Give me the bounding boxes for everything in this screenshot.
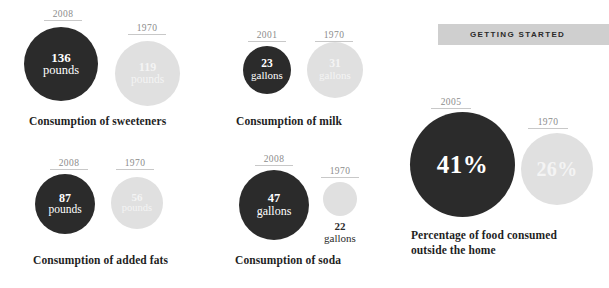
year-label-soda-recent: 2008 (255, 154, 293, 166)
caption-outside-home-line2: outside the home (411, 243, 609, 258)
year-label-milk-recent: 2001 (248, 30, 286, 42)
caption-sweeteners: Consumption of sweeteners (29, 114, 209, 129)
year-label-sweeteners-recent: 2008 (44, 9, 82, 21)
year-underline (50, 169, 88, 170)
year-label-milk-baseline: 1970 (315, 30, 353, 42)
bubble-unit: gallons (251, 70, 283, 81)
bubble-milk-baseline: 31 gallons (307, 42, 363, 98)
year-text: 1970 (324, 30, 345, 40)
bubble-soda-recent: 47 gallons (239, 170, 309, 240)
year-label-added-fats-recent: 2008 (50, 158, 88, 170)
caption-outside-home-line1: Percentage of food consumed (411, 228, 609, 243)
year-text: 2005 (441, 97, 462, 107)
bubble-outside-home-baseline: 26% (521, 133, 593, 205)
bubble-sweeteners-baseline: 119 pounds (115, 41, 180, 106)
group-added-fats: 2008 1970 87 pounds 56 pounds Consumptio… (0, 148, 215, 288)
bubble-unit: pounds (131, 74, 164, 86)
bubble-value: 26% (536, 159, 577, 180)
year-underline (321, 177, 359, 178)
year-underline (528, 128, 568, 129)
infographic-canvas: GETTING STARTED 2008 1970 136 pounds 119… (0, 0, 609, 288)
year-label-soda-baseline: 1970 (321, 166, 359, 178)
group-soda: 2008 1970 47 gallons 22 gallons Consumpt… (230, 148, 420, 288)
caption-added-fats: Consumption of added fats (33, 253, 223, 268)
year-label-added-fats-baseline: 1970 (116, 158, 154, 170)
year-underline (44, 20, 82, 21)
bubble-outside-home-recent: 41% (410, 112, 515, 217)
year-text: 2008 (59, 158, 80, 168)
bubble-soda-baseline-value: 22 gallons (310, 220, 370, 244)
year-text: 1970 (125, 158, 146, 168)
year-label-sweeteners-baseline: 1970 (128, 23, 166, 35)
year-label-outside-home-recent: 2005 (431, 97, 471, 109)
group-outside-home: 2005 1970 41% 26% Percentage of food con… (405, 95, 609, 288)
bubble-added-fats-recent: 87 pounds (35, 174, 95, 234)
year-underline (116, 169, 154, 170)
bubble-value: 119 (139, 61, 156, 73)
bubble-unit: pounds (48, 204, 81, 216)
bubble-sweeteners-recent: 136 pounds (24, 27, 98, 101)
bubble-value: 22 (310, 220, 370, 232)
year-text: 1970 (538, 117, 559, 127)
bubble-unit: gallons (257, 205, 292, 217)
bubble-added-fats-baseline: 56 pounds (111, 177, 163, 229)
bubble-milk-recent: 23 gallons (243, 46, 291, 94)
caption-milk: Consumption of milk (236, 114, 416, 129)
year-underline (128, 34, 166, 35)
bubble-unit: gallons (319, 70, 351, 81)
year-text: 2008 (53, 9, 74, 19)
bubble-unit: gallons (310, 232, 370, 244)
year-text: 1970 (330, 166, 351, 176)
bubble-unit: pounds (43, 64, 79, 77)
year-text: 1970 (137, 23, 158, 33)
getting-started-label: GETTING STARTED (470, 30, 565, 39)
year-underline (255, 165, 293, 166)
group-milk: 2001 1970 23 gallons 31 gallons Consumpt… (230, 0, 420, 140)
group-sweeteners: 2008 1970 136 pounds 119 pounds Consumpt… (0, 0, 215, 140)
bubble-soda-baseline (323, 182, 357, 216)
bubble-value: 136 (51, 51, 71, 65)
bubble-value: 41% (437, 152, 489, 178)
year-text: 2001 (257, 30, 278, 40)
caption-soda: Consumption of soda (235, 253, 415, 268)
year-label-outside-home-baseline: 1970 (528, 117, 568, 129)
year-text: 2008 (264, 154, 285, 164)
getting-started-banner: GETTING STARTED (438, 24, 609, 45)
year-underline (248, 41, 286, 42)
year-underline (431, 108, 471, 109)
bubble-unit: pounds (122, 203, 152, 214)
